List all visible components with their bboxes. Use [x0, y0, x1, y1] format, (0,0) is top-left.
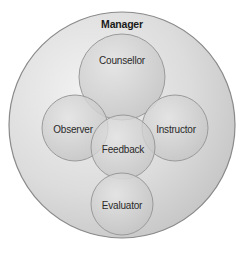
evaluator-label: Evaluator [102, 200, 142, 211]
observer-label: Observer [53, 124, 93, 135]
feedback-label: Feedback [102, 144, 144, 155]
manager-label: Manager [101, 18, 143, 30]
diagram-canvas [0, 0, 245, 253]
instructor-label: Instructor [156, 124, 196, 135]
counsellor-label: Counsellor [99, 55, 145, 66]
